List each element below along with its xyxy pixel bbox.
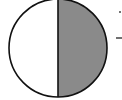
- half-shaded-circle-diagram: [0, 0, 122, 100]
- edge-dot-mark: [119, 11, 121, 13]
